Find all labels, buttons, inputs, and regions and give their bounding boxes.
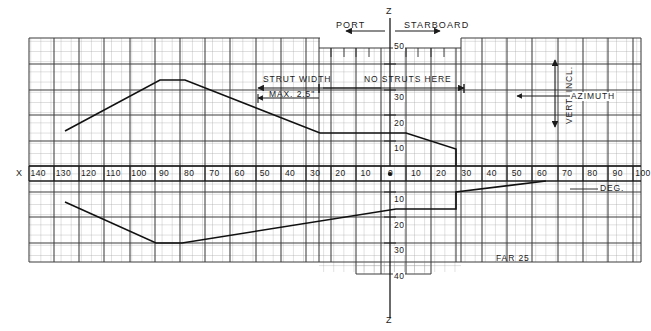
z-tick-up-20: 20 <box>393 119 405 128</box>
z-axis-symbol-top: Z <box>386 7 392 16</box>
deg-unit-label: DEG. <box>600 184 624 193</box>
x-tick-starboard-50: 50 <box>512 169 522 178</box>
x-tick-starboard-90: 90 <box>613 169 623 178</box>
z-tick-down-10: 10 <box>393 195 405 204</box>
x-tick-port-70: 70 <box>209 169 219 178</box>
x-tick-0: 0 <box>388 169 393 178</box>
x-axis-symbol: X <box>16 169 22 178</box>
port-label: PORT <box>336 21 365 30</box>
x-tick-starboard-70: 70 <box>562 169 572 178</box>
no-struts-here-label: NO STRUTS HERE <box>364 75 452 84</box>
x-tick-port-40: 40 <box>285 169 295 178</box>
starboard-label: STARBOARD <box>404 21 469 30</box>
x-tick-port-10: 10 <box>361 169 371 178</box>
x-tick-port-50: 50 <box>260 169 270 178</box>
figure-canvas: X Z Z PORT STARBOARD STRUT WIDTH MAX. 2.… <box>0 0 651 331</box>
x-tick-starboard-40: 40 <box>487 169 497 178</box>
z-axis-symbol-bottom: Z <box>386 316 392 325</box>
x-tick-starboard-100: 100 <box>635 169 650 178</box>
x-tick-port-90: 90 <box>159 169 169 178</box>
x-tick-port-120: 120 <box>81 169 96 178</box>
x-tick-starboard-80: 80 <box>587 169 597 178</box>
x-tick-port-20: 20 <box>335 169 345 178</box>
x-tick-port-60: 60 <box>235 169 245 178</box>
azimuth-label: AZIMUTH <box>570 92 616 101</box>
strut-width-label: STRUT WIDTH <box>263 75 331 84</box>
strut-max-label: MAX. 2.5" <box>269 90 315 99</box>
z-tick-up-50: 50 <box>393 42 405 51</box>
far-25-note: FAR 25 <box>496 254 530 263</box>
z-tick-up-10: 10 <box>393 144 405 153</box>
chart-svg <box>0 0 651 331</box>
x-tick-starboard-20: 20 <box>436 169 446 178</box>
grid-minor <box>29 38 641 272</box>
x-tick-port-110: 110 <box>106 169 121 178</box>
x-tick-port-140: 140 <box>31 169 46 178</box>
x-tick-starboard-60: 60 <box>537 169 547 178</box>
x-tick-port-30: 30 <box>310 169 320 178</box>
x-tick-starboard-10: 10 <box>411 169 421 178</box>
z-tick-down-30: 30 <box>393 246 405 255</box>
z-tick-down-40: 40 <box>393 272 405 281</box>
x-tick-port-130: 130 <box>56 169 71 178</box>
x-tick-port-100: 100 <box>131 169 146 178</box>
z-tick-down-20: 20 <box>393 221 405 230</box>
z-tick-up-30: 30 <box>393 93 405 102</box>
x-tick-starboard-30: 30 <box>461 169 471 178</box>
x-tick-port-80: 80 <box>184 169 194 178</box>
